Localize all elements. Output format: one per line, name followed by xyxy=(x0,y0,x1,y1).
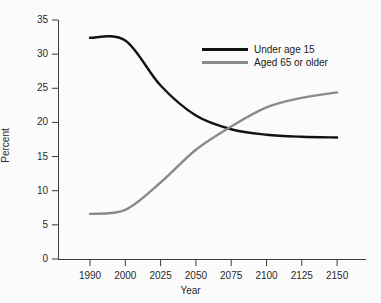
chart-plot-area xyxy=(0,0,381,303)
y-axis-tick-label: 20 xyxy=(24,117,48,127)
y-axis-ticks xyxy=(52,20,58,259)
legend-item-under-age-15: Under age 15 xyxy=(202,44,315,55)
x-axis-tick-label: 2125 xyxy=(291,271,313,281)
y-axis-tick-label: 35 xyxy=(24,15,48,25)
x-axis-tick-label: 2000 xyxy=(114,271,136,281)
x-axis-tick-label: 2050 xyxy=(185,271,207,281)
x-axis-tick-label: 2150 xyxy=(326,271,348,281)
legend-swatch-under-age-15 xyxy=(202,48,248,51)
legend-label-aged-65-or-older: Aged 65 or older xyxy=(254,57,328,68)
y-axis-tick-label: 30 xyxy=(24,49,48,59)
x-axis-tick-label: 2075 xyxy=(220,271,242,281)
y-axis-tick-label: 25 xyxy=(24,83,48,93)
legend-swatch-aged-65-or-older xyxy=(202,61,248,64)
series-line xyxy=(90,92,337,214)
y-axis-title: Percent xyxy=(0,128,11,162)
y-axis-tick-label: 5 xyxy=(24,220,48,230)
x-axis-tick-label: 2100 xyxy=(255,271,277,281)
y-axis-tick-label: 0 xyxy=(24,254,48,264)
y-axis-tick-label: 15 xyxy=(24,152,48,162)
x-axis-tick-label: 2025 xyxy=(149,271,171,281)
y-axis-tick-label: 10 xyxy=(24,186,48,196)
legend-label-under-age-15: Under age 15 xyxy=(254,44,315,55)
chart-container: 05101520253035 1990200020252050207521002… xyxy=(0,0,381,303)
x-axis-title: Year xyxy=(0,285,381,296)
x-axis-tick-label: 1990 xyxy=(79,271,101,281)
x-axis-ticks xyxy=(90,259,337,266)
legend-item-aged-65-or-older: Aged 65 or older xyxy=(202,57,328,68)
